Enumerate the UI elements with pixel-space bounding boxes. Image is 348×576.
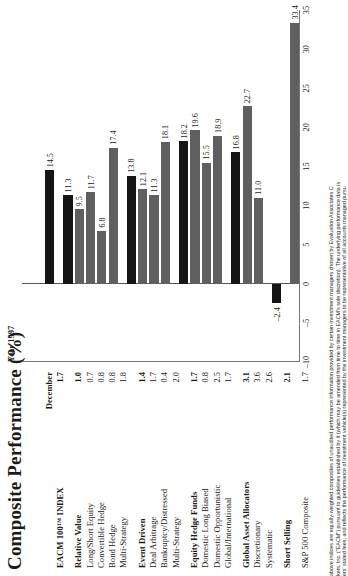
bar — [63, 195, 72, 283]
table-row: Systematic2.6 — [264, 372, 275, 568]
bar — [190, 130, 199, 283]
row-label: Bond Hedge — [107, 524, 118, 568]
row-december-value: 1.8 — [118, 372, 129, 382]
row-spacer — [275, 372, 282, 568]
bar-row: 16.8 — [230, 10, 241, 362]
bar-value-label: 14.5 — [45, 153, 54, 167]
bar-value-label: 12.1 — [138, 172, 147, 186]
row-spacer — [182, 372, 189, 568]
row-december-value: 0.4 — [159, 372, 170, 382]
bar-value-label: 9.5 — [75, 196, 84, 206]
bar — [254, 198, 263, 284]
row-label: Bankruptcy/Distressed — [159, 489, 170, 568]
table-row: Global/International1.7 — [223, 372, 234, 568]
table-row: S&P 500 Composite1.7 — [300, 372, 311, 568]
bar-value-label: –2.4 — [272, 307, 281, 321]
table-row: Global Asset Allocators3.1 — [241, 372, 252, 568]
footnote: above indices are equally-weighted compo… — [328, 0, 348, 576]
bar-value-label: 18.1 — [161, 125, 170, 139]
bar — [86, 192, 95, 284]
table-row: Multi-Strategy2.0 — [171, 372, 182, 568]
bar-row: 18.9 — [212, 10, 223, 362]
bar-row: 17.4 — [108, 10, 119, 362]
bar — [202, 163, 211, 284]
bar-value-label: 18.2 — [179, 124, 188, 138]
bar — [75, 209, 84, 283]
row-label: Long/Short Equity — [85, 503, 96, 568]
bar-row: 9.5 — [74, 10, 85, 362]
row-december-value: 3.6 — [252, 372, 263, 382]
bar-row: 11.0 — [253, 10, 264, 362]
bar-row: 14.5 — [44, 10, 55, 362]
bar-value-label: 18.9 — [213, 119, 222, 133]
bar — [138, 189, 147, 284]
x-axis-ticks: –10–505101520253035 — [302, 10, 318, 362]
bar-value-label: 11.0 — [254, 181, 263, 195]
row-december-value: 2.6 — [264, 372, 275, 382]
row-december-value: 1.0 — [73, 372, 84, 382]
row-december-value: 2.0 — [171, 372, 182, 382]
bar — [109, 148, 118, 284]
bar-value-label: 11.3 — [150, 178, 159, 192]
bar-value-label: 11.7 — [86, 175, 95, 189]
row-label: Global Asset Allocators — [241, 482, 252, 568]
row-label: Event Driven — [137, 519, 148, 568]
bar-value-label: 16.8 — [231, 135, 240, 149]
bar-value-label: 22.7 — [243, 89, 252, 103]
table-row: Equity Hedge Funds1.7 — [189, 372, 200, 568]
x-tick-label: 30 — [302, 45, 311, 53]
table-row: Multi-Strategy1.8 — [118, 372, 129, 568]
row-label: Equity Hedge Funds — [189, 492, 200, 568]
table-row: Discretionary3.6 — [252, 372, 263, 568]
bar-row: 12.1 — [137, 10, 148, 362]
row-label: Deal Arbitrage — [148, 517, 159, 568]
table-row: Domestic Long Biased0.8 — [200, 372, 211, 568]
row-label: Domestic Long Biased — [200, 488, 211, 568]
table-row: EACM 100™ INDEX1.7 — [55, 372, 66, 568]
row-label: Multi-Strategy — [171, 517, 182, 568]
table-row: Short Selling2.1 — [282, 372, 293, 568]
x-tick-label: 5 — [302, 243, 311, 247]
bar-row: 6.8 — [96, 10, 107, 362]
bar-row: 11.7 — [85, 10, 96, 362]
table-header: x December — [44, 372, 54, 568]
row-label: Systematic — [264, 530, 275, 568]
bar — [231, 152, 240, 283]
bar — [97, 231, 106, 284]
row-december-value: 0.8 — [200, 372, 211, 382]
bar-row: 19.6 — [189, 10, 200, 362]
row-label: Discretionary — [252, 521, 263, 568]
x-tick-label: 15 — [302, 162, 311, 170]
year-column-header: Year 1997 — [6, 326, 16, 362]
bar-row: 18.1 — [160, 10, 171, 362]
table-row: Event Driven1.4 — [137, 372, 148, 568]
row-december-value: 2.1 — [282, 372, 293, 382]
bar-series: 14.511.39.511.76.817.413.812.111.318.118… — [22, 10, 300, 362]
row-december-value: 2.5 — [212, 372, 223, 382]
row-label: S&P 500 Composite — [300, 497, 311, 568]
x-axis-line — [299, 10, 300, 362]
x-tick-label: –5 — [302, 319, 311, 327]
row-label: EACM 100™ INDEX — [55, 487, 66, 568]
bar — [272, 284, 281, 303]
bar-row: 11.3 — [62, 10, 73, 362]
table-row: Deal Arbitrage1.7 — [148, 372, 159, 568]
bar-row: 22.7 — [242, 10, 253, 362]
row-label: Global/International — [223, 498, 234, 568]
row-spacer — [234, 372, 241, 568]
bar — [179, 141, 188, 283]
x-tick-label: 20 — [302, 123, 311, 131]
table-rows: EACM 100™ INDEX1.7Relative Value1.0Long/… — [55, 372, 312, 568]
table-row: Domestic Opportunistic2.5 — [212, 372, 223, 568]
row-december-value: 1.4 — [137, 372, 148, 382]
x-tick-label: 10 — [302, 201, 311, 209]
bar-value-label: 6.8 — [97, 217, 106, 227]
row-label: Short Selling — [282, 520, 293, 568]
bar-value-label: 15.5 — [202, 145, 211, 159]
row-december-value: 0.7 — [85, 372, 96, 382]
chart-canvas: Composite Performance (%) x December EAC… — [0, 0, 348, 576]
bar — [45, 170, 54, 283]
row-spacer — [66, 372, 73, 568]
x-tick-label: 25 — [302, 84, 311, 92]
bar — [127, 176, 136, 284]
